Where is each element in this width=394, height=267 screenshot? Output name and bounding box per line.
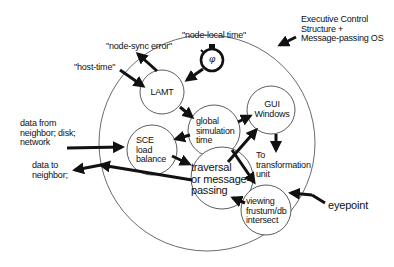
executive-control-label: Executive Control Structure + Message-pa… [301,15,383,44]
data-from-label: data from neighbor; disk; network [20,119,76,148]
node-local-time-label: "node-local time" [182,31,246,41]
gui-windows-label: GUI Windows [250,100,294,119]
sce-load-balance-label: SCE load balance [136,136,166,165]
data-to-label: data to neighbor; [32,161,68,180]
lamt-label: LAMT [140,88,184,98]
to-transformation-label: To transformation unit [256,151,311,180]
sce-line-3: balance [136,155,166,165]
executive-control-line-3: Message-passing OS [301,34,383,44]
data-to-line-2: neighbor; [32,171,68,181]
viewing-frustum-label: viewing frustum/db intersect [246,197,287,226]
traversal-line-1: traversal [191,162,250,174]
traversal-label: traversal or message- passing [191,162,250,197]
viewing-line-3: intersect [246,216,287,226]
global-sim-line-3: time [196,136,235,146]
gui-line-2: Windows [250,110,294,120]
traversal-line-3: passing [191,185,250,197]
node-sync-error-label: "node-sync error" [106,42,172,52]
stopwatch-phi-label: φ [204,55,220,65]
eyepoint-label: eyepoint [328,200,368,212]
host-time-label: "host-time" [74,63,115,73]
global-sim-time-label: global simulation time [196,117,235,146]
to-transformation-line-3: unit [256,170,311,180]
data-from-line-3: network [20,138,76,148]
